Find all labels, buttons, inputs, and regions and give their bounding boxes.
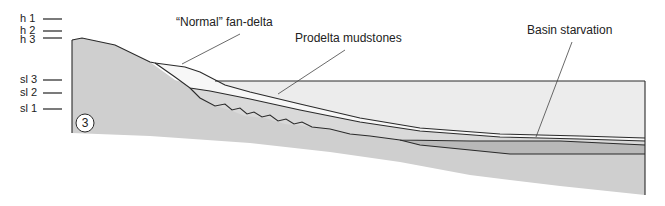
cross-section-diagram: h 1 h 2 h 3 sl 3 sl 2 sl 1 3 “Normal” fa… [0,0,665,206]
annotation-prodelta-mudstones: Prodelta mudstones [295,32,402,44]
panel-number: 3 [77,117,93,129]
annotation-normal-fan-delta: “Normal” fan-delta [176,16,273,28]
annotation-basin-starvation: Basin starvation [527,24,612,36]
level-label-sl1: sl 1 [20,103,37,114]
level-label-sl2: sl 2 [20,87,37,98]
level-label-h3: h 3 [20,34,35,45]
level-label-sl3: sl 3 [20,74,37,85]
level-label-h1: h 1 [20,13,35,24]
leader-normal-fan-delta [182,34,240,64]
level-ticks [43,19,62,109]
